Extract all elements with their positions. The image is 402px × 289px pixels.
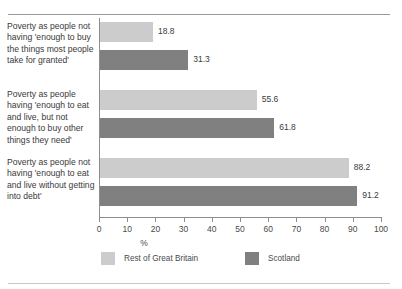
- legend-swatch-scotland: [245, 252, 259, 265]
- bar-1-0: [100, 50, 188, 70]
- x-tick-label-0: 0: [97, 224, 102, 234]
- x-tick-50: [240, 218, 241, 222]
- bottom-divider-rule: [8, 283, 390, 284]
- bar-value-label-1-1: 61.8: [279, 122, 296, 132]
- bar-0-0: [100, 22, 153, 42]
- category-label-2: Poverty as people not having 'enough to …: [7, 157, 95, 203]
- x-tick-label-50: 50: [235, 224, 244, 234]
- x-tick-0: [99, 218, 100, 222]
- chart-legend: Rest of Great Britain Scotland: [99, 252, 389, 272]
- legend-swatch-rest-of-great-britain: [101, 252, 115, 265]
- x-tick-90: [353, 218, 354, 222]
- chart-figure: Poverty as people not having 'enough to …: [0, 0, 402, 289]
- category-label-1: Poverty as people having 'enough to eat …: [7, 89, 95, 146]
- bar-0-2: [100, 158, 349, 178]
- legend-label-scotland: Scotland: [268, 254, 300, 263]
- category-label-0: Poverty as people not having 'enough to …: [7, 21, 95, 67]
- x-tick-label-30: 30: [179, 224, 188, 234]
- bar-1-2: [100, 186, 357, 206]
- bar-value-label-0-2: 88.2: [354, 162, 371, 172]
- x-axis-title: %: [140, 238, 148, 248]
- x-tick-label-60: 60: [263, 224, 272, 234]
- x-tick-40: [212, 218, 213, 222]
- x-tick-label-20: 20: [151, 224, 160, 234]
- x-tick-label-10: 10: [122, 224, 131, 234]
- top-divider-rule: [8, 14, 390, 15]
- bar-1-1: [100, 118, 274, 138]
- x-tick-label-40: 40: [207, 224, 216, 234]
- x-tick-30: [184, 218, 185, 222]
- bar-value-label-0-1: 55.6: [262, 94, 279, 104]
- x-tick-60: [268, 218, 269, 222]
- x-tick-20: [155, 218, 156, 222]
- legend-item-scotland: Scotland: [245, 252, 300, 265]
- x-tick-label-70: 70: [292, 224, 301, 234]
- bar-value-label-1-0: 31.3: [193, 54, 210, 64]
- x-tick-100: [381, 218, 382, 222]
- legend-item-rest-of-great-britain: Rest of Great Britain: [101, 252, 198, 265]
- x-tick-label-100: 100: [374, 224, 388, 234]
- x-tick-label-80: 80: [320, 224, 329, 234]
- x-tick-80: [325, 218, 326, 222]
- x-tick-label-90: 90: [348, 224, 357, 234]
- x-tick-70: [296, 218, 297, 222]
- plot-area: 0102030405060708090100 % 18.831.355.661.…: [99, 18, 382, 217]
- bar-0-1: [100, 90, 257, 110]
- bar-value-label-0-0: 18.8: [158, 26, 175, 36]
- bar-value-label-1-2: 91.2: [362, 190, 379, 200]
- legend-label-rest-of-great-britain: Rest of Great Britain: [124, 254, 198, 263]
- x-tick-10: [127, 218, 128, 222]
